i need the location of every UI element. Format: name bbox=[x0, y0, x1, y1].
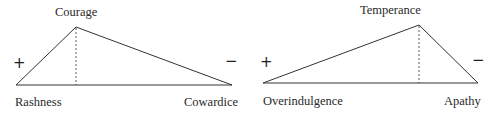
vice-label-cowardice: Cowardice bbox=[184, 95, 238, 109]
minus-sign-right: − bbox=[472, 53, 485, 68]
virtue-label-courage: Courage bbox=[55, 5, 97, 19]
minus-sign-left: − bbox=[225, 54, 238, 69]
vice-label-rashness: Rashness bbox=[15, 95, 62, 109]
temperance-triangle bbox=[263, 25, 478, 83]
virtue-label-temperance: Temperance bbox=[360, 3, 421, 17]
vice-label-overindulgence: Overindulgence bbox=[263, 94, 343, 108]
vice-label-apathy: Apathy bbox=[444, 94, 481, 108]
courage-triangle bbox=[16, 27, 232, 85]
plus-sign-left: + bbox=[13, 56, 26, 71]
plus-sign-right: + bbox=[260, 55, 273, 70]
